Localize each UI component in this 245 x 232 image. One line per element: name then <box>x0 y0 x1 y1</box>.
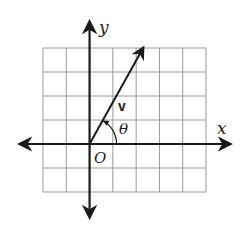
origin-label: O <box>94 149 106 167</box>
x-axis-label: x <box>217 118 227 138</box>
y-axis-label: y <box>98 17 109 37</box>
coordinate-plane-diagram: x y O v θ <box>0 0 245 232</box>
angle-label: θ <box>119 120 128 138</box>
angle-arc <box>103 120 117 144</box>
vector-label: v <box>118 98 126 114</box>
